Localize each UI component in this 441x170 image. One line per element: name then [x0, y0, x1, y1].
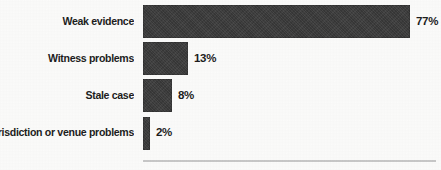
category-label: Weak evidence [11, 5, 134, 38]
chart-row: Weak evidence 77% [0, 5, 441, 38]
chart-row: Witness problems 13% [0, 42, 441, 75]
category-label: Stale case [11, 79, 134, 112]
x-axis-line [143, 160, 436, 162]
value-label: 77% [416, 5, 438, 38]
value-label: 8% [178, 79, 194, 112]
bar-jurisdiction-or-venue-problems [143, 117, 150, 150]
bar-stale-case [143, 79, 172, 112]
chart-row: Stale case 8% [0, 79, 441, 112]
chart-plot-area: Weak evidence 77% Witness problems 13% S… [0, 0, 441, 170]
value-label: 13% [194, 42, 216, 75]
bar-weak-evidence [143, 5, 410, 38]
category-label: Witness problems [11, 42, 134, 75]
bar-chart: Weak evidence 77% Witness problems 13% S… [0, 0, 441, 170]
value-label: 2% [156, 117, 172, 150]
bar-witness-problems [143, 42, 188, 75]
chart-row: Jurisdiction or venue problems 2% [0, 117, 441, 150]
category-label: Jurisdiction or venue problems [11, 117, 134, 150]
